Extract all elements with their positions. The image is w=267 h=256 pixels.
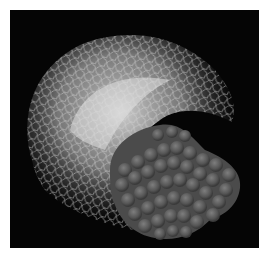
- molecular-render-panel: Molecular rendering: a light wireframe a…: [10, 10, 259, 248]
- sphere-cluster: [110, 125, 240, 240]
- molecular-render: [10, 10, 259, 248]
